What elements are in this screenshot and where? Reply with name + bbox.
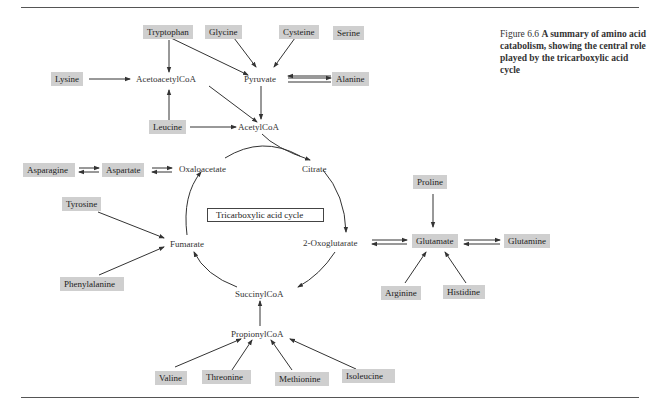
cycle-label-box: Tricarboxylic acid cycle xyxy=(207,208,324,222)
amino-acid-glutamine: Glutamine xyxy=(504,234,550,248)
metabolite-acetylcoa: AcetylCoA xyxy=(238,121,279,133)
amino-acid-valine: Valine xyxy=(155,371,187,385)
amino-acid-aspartate: Aspartate xyxy=(102,163,144,177)
metabolite-succinylcoa: SuccinylCoA xyxy=(235,288,284,300)
amino-acid-leucine: Leucine xyxy=(149,120,186,134)
figure-caption: Figure 6.6 A summary of amino acid catab… xyxy=(500,28,650,76)
amino-acid-threonine: Threonine xyxy=(202,370,251,384)
amino-acid-glutamate: Glutamate xyxy=(412,234,458,248)
amino-acid-glycine: Glycine xyxy=(205,25,242,39)
metabolite-2-oxoglutarate: 2-Oxoglutarate xyxy=(303,237,357,249)
amino-acid-tyrosine: Tyrosine xyxy=(62,197,101,211)
amino-acid-histidine: Histidine xyxy=(443,285,485,299)
amino-acid-alanine: Alanine xyxy=(332,72,369,86)
amino-acid-cysteine: Cysteine xyxy=(279,25,319,39)
metabolite-propionylcoa: PropionylCoA xyxy=(231,328,284,340)
amino-acid-methionine: Methionine xyxy=(275,372,329,386)
metabolite-acetoacetylcoa: AcetoacetylCoA xyxy=(136,73,196,85)
metabolite-oxaloacetate: Oxaloacetate xyxy=(179,163,226,175)
metabolite-citrate: Citrate xyxy=(302,163,327,175)
metabolite-pyruvate: Pyruvate xyxy=(244,73,276,85)
figure-page: Tryptophan Glycine Cysteine Serine Lysin… xyxy=(0,0,659,401)
amino-acid-arginine: Arginine xyxy=(381,286,421,300)
amino-acid-serine: Serine xyxy=(333,26,364,40)
figure-number: Figure 6.6 xyxy=(500,29,539,39)
amino-acid-lysine: Lysine xyxy=(51,72,83,86)
amino-acid-isoleucine: Isoleucine xyxy=(342,369,395,383)
amino-acid-phenylalanine: Phenylalanine xyxy=(60,277,124,291)
amino-acid-asparagine: Asparagine xyxy=(23,163,75,177)
metabolite-fumarate: Fumarate xyxy=(170,238,204,250)
amino-acid-tryptophan: Tryptophan xyxy=(143,25,193,39)
amino-acid-proline: Proline xyxy=(413,175,447,189)
